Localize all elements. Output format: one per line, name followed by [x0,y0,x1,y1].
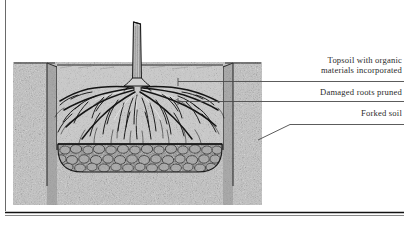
planting-hole-left-wall [47,63,57,205]
forked-soil-layer [56,142,224,176]
planting-hole-right-wall [223,63,233,205]
label-damaged-roots: Damaged roots pruned [252,87,402,97]
label-forked-soil: Forked soil [252,108,402,118]
label-topsoil: Topsoil with organic materials incorpora… [252,55,402,75]
